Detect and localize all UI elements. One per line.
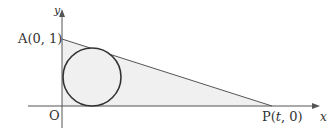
y-axis-label: y [54,4,60,17]
point-p-prefix: P( [262,109,276,124]
point-a-label: A(0, 1) [18,31,62,46]
point-p-label: P(t, 0) [262,109,303,124]
x-axis-label: x [320,110,327,124]
origin-label: O [49,108,60,123]
x-axis-arrow-icon [312,103,320,109]
inscribed-circle [63,48,121,106]
point-p-suffix: , 0) [281,109,303,124]
